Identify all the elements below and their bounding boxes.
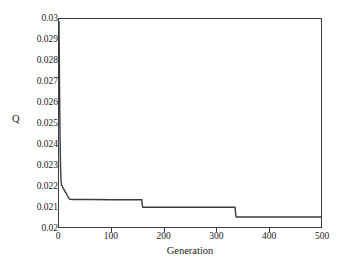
x-axis-label: Generation: [58, 245, 322, 256]
xtick-label: 400: [262, 231, 276, 242]
ytick-label: 0.03: [41, 13, 58, 23]
xtick-label: 200: [156, 231, 170, 242]
plot-area: [58, 18, 322, 228]
convergence-curve: [59, 19, 321, 227]
ytick-label: 0.028: [37, 55, 58, 65]
xtick-label: 500: [315, 231, 329, 242]
ytick-label: 0.021: [37, 202, 58, 212]
ytick-label: 0.026: [37, 97, 58, 107]
series-line-q: [59, 21, 321, 217]
y-axis-label: Q: [12, 113, 20, 124]
ytick-label: 0.029: [37, 34, 58, 44]
ytick-label: 0.023: [37, 160, 58, 170]
xtick-label: 300: [209, 231, 223, 242]
ytick-label: 0.022: [37, 181, 58, 191]
xtick-label: 0: [56, 231, 61, 242]
ytick-label: 0.025: [37, 118, 58, 128]
xtick-label: 100: [104, 231, 118, 242]
ytick-label: 0.027: [37, 76, 58, 86]
chart-figure: 0.03 0.029 0.028 0.027 0.026 0.025 0.024…: [0, 0, 349, 265]
ytick-label: 0.024: [37, 139, 58, 149]
